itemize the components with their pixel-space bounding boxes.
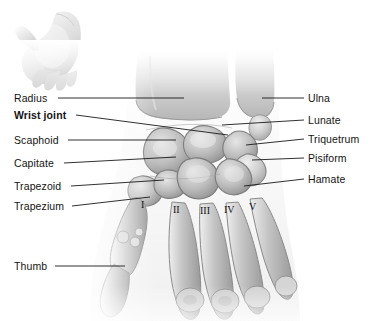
metacarpal-numeral-IV: IV xyxy=(224,204,235,215)
metacarpal-numeral-V: V xyxy=(249,201,256,212)
label-ulna: Ulna xyxy=(308,93,330,104)
label-lunate: Lunate xyxy=(308,115,341,126)
metacarpal-numeral-I: I xyxy=(141,199,144,210)
label-hamate: Hamate xyxy=(308,174,345,185)
label-scaphoid: Scaphoid xyxy=(14,135,59,146)
metacarpal-numeral-III: III xyxy=(200,205,210,216)
metacarpal-numeral-II: II xyxy=(173,204,180,215)
label-wrist-joint: Wrist joint xyxy=(14,110,66,121)
label-radius: Radius xyxy=(14,93,47,104)
label-trapezoid: Trapezoid xyxy=(14,181,61,192)
label-thumb: Thumb xyxy=(14,261,47,272)
label-capitate: Capitate xyxy=(14,158,54,169)
anatomy-figure: RadiusWrist jointScaphoidCapitateTrapezo… xyxy=(0,0,377,321)
label-triquetrum: Triquetrum xyxy=(308,134,359,145)
label-trapezium: Trapezium xyxy=(14,201,64,212)
label-pisiform: Pisiform xyxy=(308,153,347,164)
